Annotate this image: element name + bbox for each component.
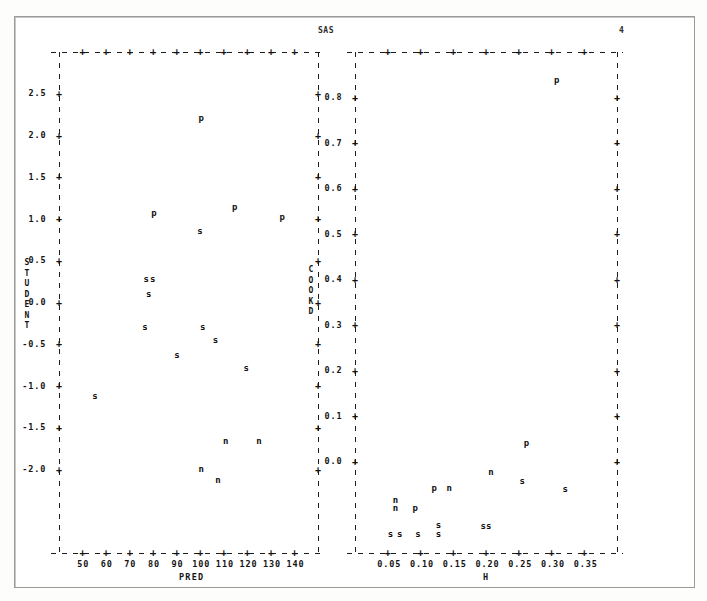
x-tick-mark-0-9: + bbox=[291, 548, 297, 558]
y-tick-label-1-5: 0.3 bbox=[324, 321, 342, 330]
x-tick-mark-1-4: + bbox=[516, 548, 522, 558]
y-tick-label-1-1: 0.7 bbox=[324, 139, 342, 148]
x-tick-label-0-2: 70 bbox=[124, 560, 136, 569]
x-axis-title-pred: PRED bbox=[179, 572, 204, 582]
x-tick-mark-0-6: + bbox=[221, 548, 227, 558]
y-tick-label-0-7: -1.0 bbox=[22, 382, 46, 391]
x-tick-mark-1-3: + bbox=[483, 548, 489, 558]
data-point-n: n bbox=[256, 437, 261, 446]
y-tick-mark-right-0-5: + bbox=[315, 298, 321, 308]
y-tick-mark-1-4: + bbox=[352, 275, 358, 285]
y-tick-mark-right-1-8: + bbox=[614, 457, 620, 467]
y-tick-mark-0-5: + bbox=[56, 298, 62, 308]
y-axis-title-student: STUDENT bbox=[22, 258, 32, 332]
x-tick-label-0-3: 80 bbox=[148, 560, 160, 569]
x-tick-mark-0-8: + bbox=[268, 548, 274, 558]
x-tick-mark-top-0-1: + bbox=[103, 47, 109, 57]
y-tick-mark-1-5: + bbox=[352, 320, 358, 330]
x-tick-mark-0-3: + bbox=[150, 548, 156, 558]
axis-title-char: O bbox=[306, 276, 316, 287]
x-tick-label-0-7: 120 bbox=[239, 560, 257, 569]
x-tick-mark-top-1-2: + bbox=[450, 47, 456, 57]
y-tick-mark-right-1-0: + bbox=[614, 93, 620, 103]
y-tick-mark-right-1-3: + bbox=[614, 229, 620, 239]
x-tick-label-0-8: 130 bbox=[263, 560, 281, 569]
x-tick-mark-top-0-7: + bbox=[244, 47, 250, 57]
axis-title-char: T bbox=[22, 269, 32, 280]
y-tick-label-0-5: 0.0 bbox=[28, 298, 46, 307]
y-tick-mark-1-3: + bbox=[352, 229, 358, 239]
y-tick-mark-right-0-1: + bbox=[315, 131, 321, 141]
data-point-s: s bbox=[92, 391, 97, 400]
x-tick-mark-1-2: + bbox=[450, 548, 456, 558]
data-point-s: s bbox=[415, 530, 420, 539]
x-tick-mark-top-1-3: + bbox=[483, 47, 489, 57]
y-tick-mark-1-7: + bbox=[352, 411, 358, 421]
x-tick-label-1-3: 0.20 bbox=[475, 560, 499, 569]
x-tick-mark-top-1-0: + bbox=[385, 47, 391, 57]
data-point-s: s bbox=[200, 322, 205, 331]
data-point-n: n bbox=[199, 465, 204, 474]
x-tick-mark-0-7: + bbox=[244, 548, 250, 558]
x-tick-mark-0-4: + bbox=[174, 548, 180, 558]
y-tick-mark-0-3: + bbox=[56, 214, 62, 224]
data-point-s: s bbox=[243, 363, 248, 372]
plot-right-axis-1 bbox=[617, 52, 618, 553]
x-tick-mark-0-2: + bbox=[127, 548, 133, 558]
y-tick-label-0-1: 2.0 bbox=[28, 131, 46, 140]
x-tick-mark-top-1-4: + bbox=[516, 47, 522, 57]
y-tick-mark-right-0-8: + bbox=[315, 423, 321, 433]
x-tick-label-1-6: 0.35 bbox=[574, 560, 598, 569]
data-point-p: p bbox=[279, 213, 284, 222]
y-tick-mark-0-9: + bbox=[56, 465, 62, 475]
x-tick-label-0-0: 50 bbox=[77, 560, 89, 569]
y-axis-title-cookd: COOKD bbox=[306, 265, 316, 318]
data-point-n: n bbox=[446, 483, 451, 492]
y-tick-mark-1-2: + bbox=[352, 184, 358, 194]
y-tick-label-1-4: 0.4 bbox=[324, 275, 342, 284]
data-point-p: p bbox=[151, 209, 156, 218]
x-tick-label-1-4: 0.25 bbox=[508, 560, 532, 569]
plot-bottom-axis-0 bbox=[51, 553, 324, 554]
y-tick-label-0-6: -0.5 bbox=[22, 340, 46, 349]
y-tick-label-1-3: 0.5 bbox=[324, 230, 342, 239]
data-point-s: s bbox=[486, 522, 491, 531]
y-tick-mark-1-6: + bbox=[352, 366, 358, 376]
x-tick-mark-top-0-6: + bbox=[221, 47, 227, 57]
x-tick-mark-top-0-5: + bbox=[197, 47, 203, 57]
x-tick-label-1-2: 0.15 bbox=[443, 560, 467, 569]
y-tick-label-1-2: 0.6 bbox=[324, 184, 342, 193]
y-tick-label-1-6: 0.2 bbox=[324, 366, 342, 375]
y-tick-mark-right-1-2: + bbox=[614, 184, 620, 194]
data-point-s: s bbox=[436, 530, 441, 539]
y-tick-mark-right-1-6: + bbox=[614, 366, 620, 376]
y-tick-mark-0-7: + bbox=[56, 381, 62, 391]
y-tick-label-1-7: 0.1 bbox=[324, 412, 342, 421]
x-tick-mark-top-0-0: + bbox=[80, 47, 86, 57]
plot-left-axis-1 bbox=[355, 52, 356, 553]
data-point-s: s bbox=[150, 275, 155, 284]
y-tick-mark-0-6: + bbox=[56, 339, 62, 349]
axis-title-char: N bbox=[22, 311, 32, 322]
x-tick-mark-top-0-4: + bbox=[174, 47, 180, 57]
y-tick-mark-right-0-3: + bbox=[315, 214, 321, 224]
x-tick-mark-top-1-6: + bbox=[581, 47, 587, 57]
y-tick-mark-right-0-4: + bbox=[315, 256, 321, 266]
axis-title-char: U bbox=[22, 279, 32, 290]
data-point-n: n bbox=[488, 467, 493, 476]
data-point-s: s bbox=[519, 476, 524, 485]
data-point-s: s bbox=[143, 275, 148, 284]
data-point-p: p bbox=[432, 483, 437, 492]
x-tick-mark-top-0-2: + bbox=[127, 47, 133, 57]
plot-top-border-0 bbox=[51, 52, 324, 53]
data-point-s: s bbox=[436, 520, 441, 529]
y-tick-mark-0-2: + bbox=[56, 172, 62, 182]
data-point-n: n bbox=[215, 476, 220, 485]
x-tick-mark-0-5: + bbox=[197, 548, 203, 558]
data-point-p: p bbox=[524, 439, 529, 448]
y-tick-mark-right-0-0: + bbox=[315, 89, 321, 99]
y-tick-label-1-0: 0.8 bbox=[324, 93, 342, 102]
data-point-s: s bbox=[146, 290, 151, 299]
x-tick-label-1-0: 0.05 bbox=[377, 560, 401, 569]
y-tick-mark-1-1: + bbox=[352, 138, 358, 148]
